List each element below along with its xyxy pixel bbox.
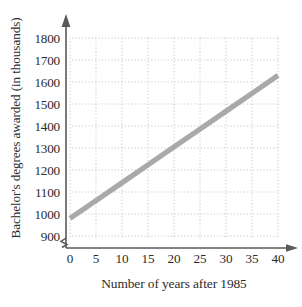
chart-figure: Bachelor's degrees awarded (in thousands… (0, 0, 302, 307)
plot-area (0, 0, 302, 307)
arrow-up-icon (62, 14, 71, 27)
gridlines (70, 38, 280, 238)
axis-lines (61, 14, 298, 252)
arrow-right-icon (286, 244, 298, 252)
